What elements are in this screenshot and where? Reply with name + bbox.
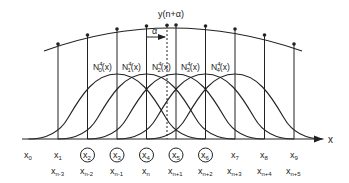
x-axis-label: x <box>328 134 333 145</box>
knot-label-x6: x6 <box>201 150 210 161</box>
knot-label-x0: x0 <box>24 150 33 161</box>
knot-label-n+5: xn+5 <box>286 166 301 177</box>
knot-label-n-2: xn-2 <box>80 166 94 177</box>
basis-label-n4: N44(x) <box>211 61 230 73</box>
basis-label-n3: N43(x) <box>181 61 200 73</box>
knot-labels-bottom: xn-3 xn-2 xn-1 xn xn+1 xn+2 xn+3 xn+4 xn… <box>51 166 301 177</box>
knot-label-n+1: xn+1 <box>168 166 183 177</box>
curve-title-label: y(n+α) <box>158 9 184 19</box>
knot-label-n+3: xn+3 <box>227 166 242 177</box>
basis-label-n2: N42(x) <box>152 61 171 73</box>
knot-label-x4: x4 <box>142 150 151 161</box>
knot-label-n+4: xn+4 <box>257 166 272 177</box>
knot-label-n+2: xn+2 <box>198 166 213 177</box>
knot-label-x9: x9 <box>290 150 299 161</box>
basis-labels: N40(x) N41(x) N42(x) N43(x) N44(x) <box>93 61 230 73</box>
knot-label-x3: x3 <box>113 150 122 161</box>
alpha-label: α <box>152 26 157 36</box>
b-spline-diagram: x α y(n+α) N40( <box>0 0 349 183</box>
interpolated-curve <box>44 28 302 51</box>
knot-label-x1: x1 <box>54 150 63 161</box>
knot-lines <box>58 25 294 139</box>
basis-label-n1: N41(x) <box>122 61 141 73</box>
knot-label-n: xn <box>142 166 150 177</box>
knot-label-x8: x8 <box>260 150 269 161</box>
knot-label-n-1: xn-1 <box>110 166 124 177</box>
knot-label-x2: x2 <box>83 150 92 161</box>
knot-labels-top: x0 x1 x2 x3 x4 x5 x6 x7 x8 x9 <box>24 150 299 161</box>
basis-label-n0: N40(x) <box>93 61 112 73</box>
knot-label-x7: x7 <box>231 150 240 161</box>
knot-label-n-3: xn-3 <box>51 166 65 177</box>
knot-label-x5: x5 <box>172 150 181 161</box>
